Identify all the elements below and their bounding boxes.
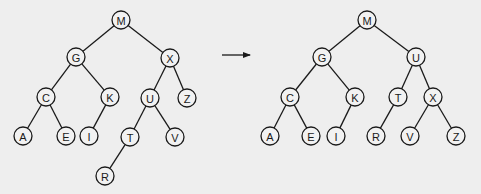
node-label: K [106, 92, 114, 104]
edge-after-X-V [415, 105, 429, 128]
node-label: Z [184, 93, 191, 105]
node-label: T [395, 92, 402, 104]
tree-rotation-diagram: MGXCKUZAEITVR MGUCKTXAEIRVZ [0, 0, 481, 194]
edge-after-U-T [402, 65, 413, 89]
node-after-M: M [358, 11, 376, 29]
node-after-T: T [389, 88, 407, 106]
tree-after: MGUCKTXAEIRVZ [261, 11, 465, 145]
node-before-V: V [166, 128, 184, 146]
edge-after-C-A [274, 105, 286, 128]
node-after-E: E [302, 127, 320, 145]
node-label: V [406, 131, 414, 143]
edge-before-X-U [154, 66, 166, 90]
node-after-X: X [424, 88, 442, 106]
node-after-R: R [367, 127, 385, 145]
edge-before-U-T [134, 106, 146, 129]
node-before-U: U [141, 89, 159, 107]
node-label: I [87, 131, 90, 143]
edge-after-C-E [294, 105, 306, 128]
node-label: X [166, 53, 174, 65]
edge-before-C-A [28, 105, 42, 128]
tree-before: MGXCKUZAEITVR [14, 11, 196, 185]
node-before-C: C [37, 88, 55, 106]
node-label: R [101, 171, 109, 183]
node-label: U [146, 93, 154, 105]
node-after-V: V [401, 127, 419, 145]
edge-after-U-X [420, 65, 430, 88]
node-before-T: T [121, 128, 139, 146]
edge-before-M-X [128, 26, 163, 53]
node-label: T [127, 132, 134, 144]
node-after-A: A [261, 127, 279, 145]
node-label: G [318, 52, 327, 64]
node-label: X [429, 92, 437, 104]
node-label: E [62, 131, 69, 143]
node-label: C [286, 92, 294, 104]
node-before-A: A [14, 127, 32, 145]
node-label: Z [453, 131, 460, 143]
node-before-X: X [161, 49, 179, 67]
node-before-E: E [57, 127, 75, 145]
node-label: C [42, 92, 50, 104]
node-label: E [307, 131, 314, 143]
node-before-I: I [80, 127, 98, 145]
node-before-Z: Z [178, 89, 196, 107]
edge-before-U-V [155, 106, 170, 130]
node-after-C: C [281, 88, 299, 106]
node-after-K: K [346, 88, 364, 106]
node-label: K [351, 92, 359, 104]
node-before-G: G [67, 48, 85, 66]
node-label: I [334, 131, 337, 143]
edge-before-G-K [82, 64, 104, 90]
node-before-M: M [112, 11, 130, 29]
edge-after-K-I [340, 105, 351, 128]
node-before-K: K [101, 88, 119, 106]
node-after-Z: Z [447, 127, 465, 145]
node-label: R [372, 131, 380, 143]
edge-before-C-E [50, 105, 62, 128]
edge-before-M-G [83, 26, 114, 52]
edge-after-M-G [329, 26, 360, 52]
node-label: M [116, 15, 125, 27]
edge-before-X-Z [174, 66, 184, 89]
edge-after-G-C [296, 64, 317, 90]
edge-before-K-I [93, 105, 105, 128]
edge-after-T-R [380, 105, 393, 128]
node-label: A [19, 131, 27, 143]
edge-after-X-Z [438, 105, 452, 128]
edge-before-G-C [51, 64, 70, 90]
edge-after-G-K [328, 64, 350, 90]
edge-after-M-U [374, 25, 409, 51]
node-before-R: R [96, 167, 114, 185]
node-after-I: I [327, 127, 345, 145]
node-label: V [171, 132, 179, 144]
node-label: G [72, 52, 81, 64]
node-label: M [362, 15, 371, 27]
diagram-canvas: MGXCKUZAEITVR MGUCKTXAEIRVZ [0, 0, 481, 194]
node-after-G: G [313, 48, 331, 66]
edge-before-T-R [110, 145, 125, 169]
node-label: A [266, 131, 274, 143]
node-after-U: U [407, 48, 425, 66]
node-label: U [412, 52, 420, 64]
